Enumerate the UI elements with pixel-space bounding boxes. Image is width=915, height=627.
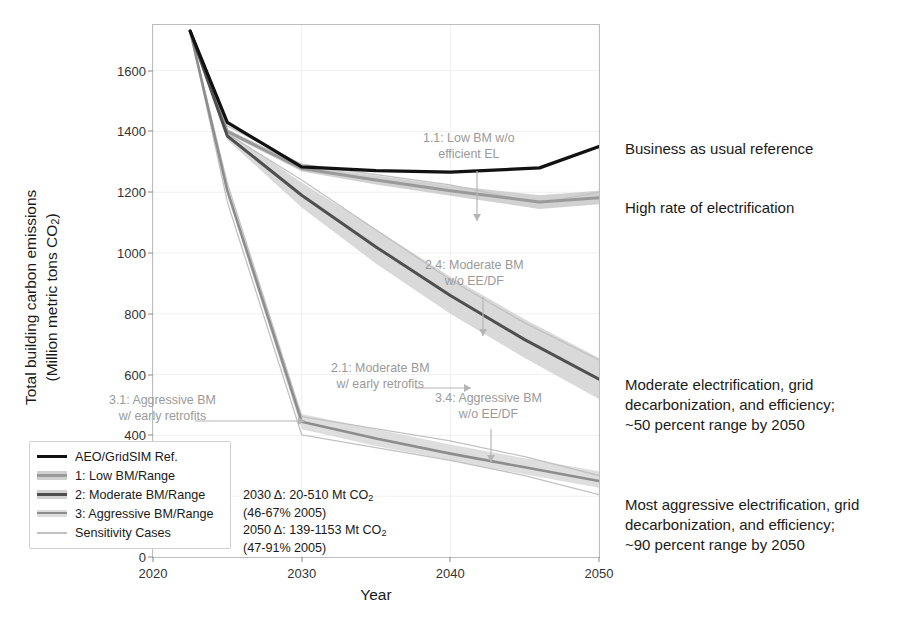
legend-swatch-icon: [37, 450, 67, 463]
legend: AEO/GridSIM Ref.1: Low BM/Range2: Modera…: [29, 441, 231, 549]
callout-c31-line2: w/ early retrofits: [109, 409, 216, 425]
legend-item-2[interactable]: 2: Moderate BM/Range: [37, 485, 223, 504]
legend-swatch-icon: [37, 526, 67, 539]
y-tick-label: 1200: [117, 185, 146, 200]
legend-label: 3: Aggressive BM/Range: [75, 507, 214, 521]
callout-c11-line1: 1.1: Low BM w/o: [423, 131, 515, 147]
y-tick-mark: [148, 313, 153, 314]
legend-swatch-icon: [37, 488, 67, 501]
y-axis-title-line1: Total building carbon emissions: [22, 190, 39, 405]
series-sensitivity-case-1: [190, 31, 599, 203]
y-tick-mark: [148, 435, 153, 436]
callout-c31: 3.1: Aggressive BMw/ early retrofits: [109, 393, 216, 424]
series-line-low: [190, 31, 599, 202]
delta-2050: 2050 Δ: 139-1153 Mt CO2: [243, 522, 386, 540]
callout-c24: 2.4: Moderate BMw/o EE/DF: [425, 258, 523, 289]
x-tick-label: 2030: [287, 566, 316, 581]
callout-c21-line1: 2.1: Moderate BM: [331, 361, 429, 377]
x-tick-mark: [301, 557, 302, 562]
x-tick-mark: [450, 557, 451, 562]
side-note-3-line2: decarbonization, and efficiency;: [625, 515, 915, 535]
delta-annotation: 2030 Δ: 20-510 Mt CO2 (46-67% 2005) 2050…: [243, 487, 386, 557]
co2-subscript: 2: [49, 218, 61, 224]
y-tick-label: 800: [124, 306, 146, 321]
x-tick-label: 2040: [436, 566, 465, 581]
legend-swatch-icon: [37, 507, 67, 520]
y-tick-mark: [148, 131, 153, 132]
side-note-3-line3: ~90 percent range by 2050: [625, 535, 915, 555]
y-tick-label: 1400: [117, 124, 146, 139]
x-axis-title: Year: [152, 586, 600, 604]
x-tick-mark: [153, 557, 154, 562]
delta-2050-percent: (47-91% 2005): [243, 540, 386, 557]
x-tick-label: 2020: [139, 566, 168, 581]
legend-swatch-icon: [37, 469, 67, 482]
y-tick-label: 1000: [117, 246, 146, 261]
callout-c34-line2: w/o EE/DF: [435, 407, 542, 423]
legend-item-1[interactable]: 1: Low BM/Range: [37, 466, 223, 485]
callout-c11: 1.1: Low BM w/oefficient EL: [423, 131, 515, 162]
callout-c24-line1: 2.4: Moderate BM: [425, 258, 523, 274]
legend-item-3[interactable]: 3: Aggressive BM/Range: [37, 504, 223, 523]
legend-label: Sensitivity Cases: [75, 526, 171, 540]
y-tick-label: 1600: [117, 63, 146, 78]
y-tick-mark: [148, 374, 153, 375]
side-note-2-line1: Moderate electrification, grid: [625, 375, 915, 395]
delta-co2-sub-1: 2: [368, 493, 373, 503]
y-tick-label: 600: [124, 367, 146, 382]
y-tick-mark: [148, 253, 153, 254]
callout-c34: 3.4: Aggressive BMw/o EE/DF: [435, 391, 542, 422]
delta-2030: 2030 Δ: 20-510 Mt CO2: [243, 487, 386, 505]
legend-label: 2: Moderate BM/Range: [75, 488, 205, 502]
emissions-chart-figure: Total building carbon emissions (Million…: [0, 0, 915, 627]
callout-c31-line1: 3.1: Aggressive BM: [109, 393, 216, 409]
y-tick-mark: [148, 70, 153, 71]
side-note-most-aggressive-electrification: Most aggressive electrification, grid de…: [625, 495, 915, 555]
side-note-2-line3: ~50 percent range by 2050: [625, 415, 915, 435]
x-tick-mark: [599, 557, 600, 562]
legend-label: 1: Low BM/Range: [75, 469, 175, 483]
side-note-business-as-usual: Business as usual reference: [625, 139, 915, 159]
callout-c24-line2: w/o EE/DF: [425, 274, 523, 290]
callout-c21: 2.1: Moderate BMw/ early retrofits: [331, 361, 429, 392]
side-note-moderate-electrification: Moderate electrification, grid decarboni…: [625, 375, 915, 435]
series-band-moderate: [190, 31, 599, 399]
callout-c34-line1: 3.4: Aggressive BM: [435, 391, 542, 407]
callout-c21-line2: w/ early retrofits: [331, 377, 429, 393]
y-tick-mark: [148, 192, 153, 193]
side-note-high-electrification: High rate of electrification: [625, 198, 915, 218]
callout-c34-arrow: [487, 429, 495, 462]
side-note-2-line2: decarbonization, and efficiency;: [625, 395, 915, 415]
delta-2030-percent: (46-67% 2005): [243, 505, 386, 522]
legend-item-0[interactable]: AEO/GridSIM Ref.: [37, 447, 223, 466]
callout-c11-line2: efficient EL: [423, 147, 515, 163]
y-tick-label: 0: [139, 550, 146, 565]
delta-co2-sub-2: 2: [381, 528, 386, 538]
side-note-3-line1: Most aggressive electrification, grid: [625, 495, 915, 515]
legend-label: AEO/GridSIM Ref.: [75, 450, 178, 464]
legend-item-4[interactable]: Sensitivity Cases: [37, 523, 223, 542]
x-tick-label: 2050: [585, 566, 614, 581]
